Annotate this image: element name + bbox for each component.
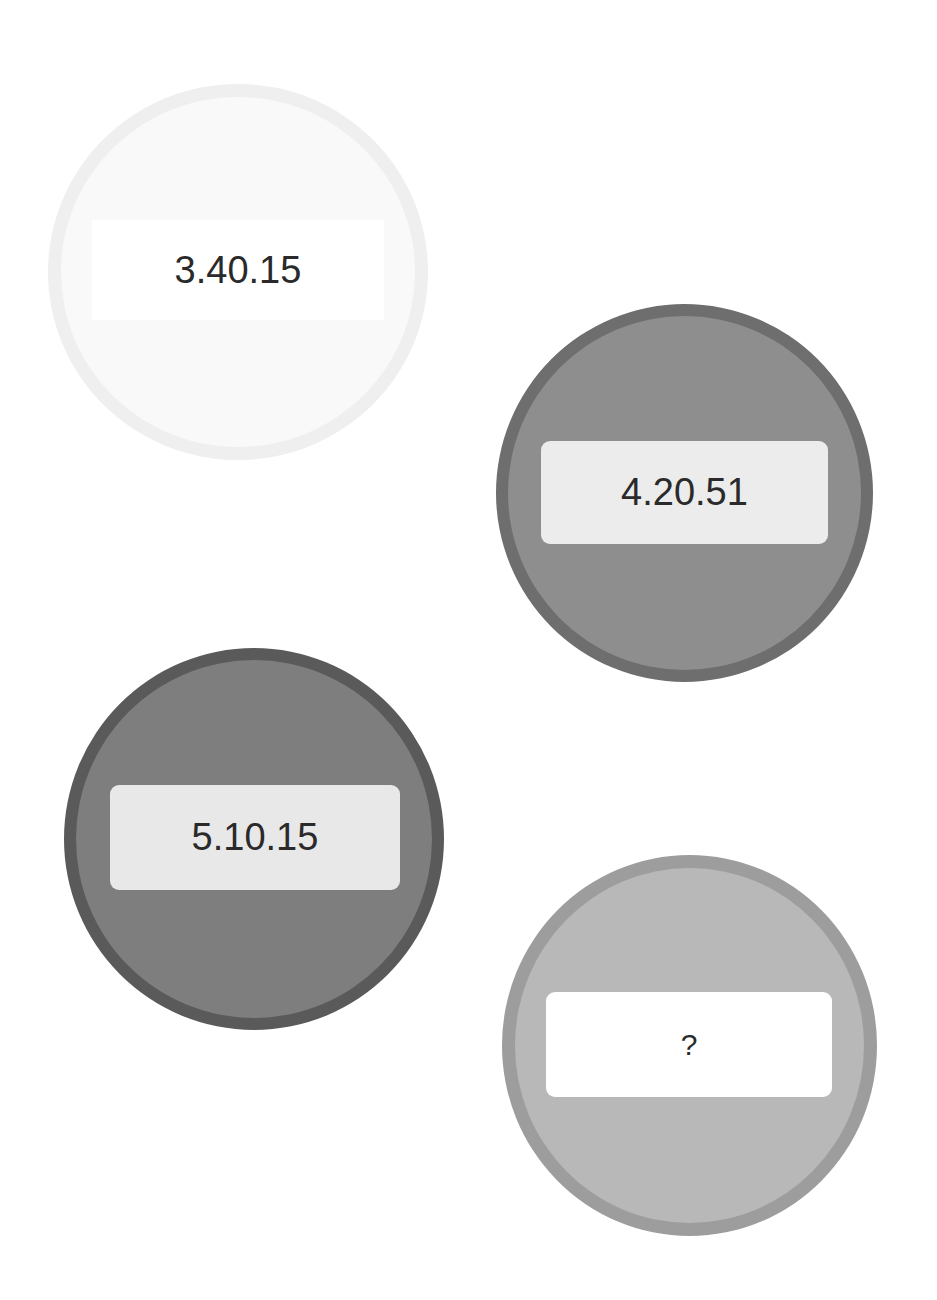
badge-label-4-unknown: ? — [546, 992, 832, 1097]
badge-label-2: 4.20.51 — [541, 441, 828, 544]
badge-label-text-1: 3.40.15 — [175, 249, 302, 292]
badge-label-3: 5.10.15 — [110, 785, 400, 890]
badge-label-1: 3.40.15 — [92, 220, 384, 320]
badge-label-text-2: 4.20.51 — [621, 471, 748, 514]
question-mark-text: ? — [681, 1028, 698, 1062]
badge-label-text-3: 5.10.15 — [192, 816, 319, 859]
